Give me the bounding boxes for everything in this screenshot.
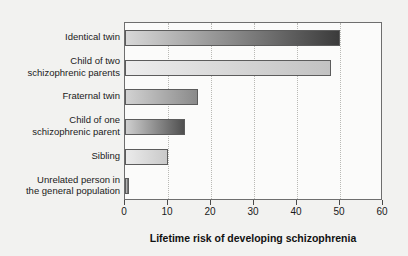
y-axis-label: Identical twin	[0, 31, 120, 43]
bar-series	[125, 23, 381, 199]
y-axis-label: Sibling	[0, 150, 120, 162]
tick-mark-50	[339, 200, 340, 205]
y-axis-label: Child of one schizophrenic parent	[0, 114, 120, 137]
tick-mark-0	[124, 200, 125, 205]
tick-mark-60	[382, 200, 383, 205]
tick-mark-30	[253, 200, 254, 205]
plot-area	[124, 22, 382, 200]
x-tick-label: 0	[121, 206, 127, 217]
x-tick-label: 40	[290, 206, 301, 217]
x-axis-ticks: 0102030405060	[124, 200, 382, 222]
bar	[125, 30, 340, 46]
y-axis-label: Unrelated person in the general populati…	[0, 174, 120, 197]
y-axis-label: Child of two schizophrenic parents	[0, 55, 120, 78]
tick-mark-20	[210, 200, 211, 205]
x-tick-label: 50	[333, 206, 344, 217]
y-axis-label: Fraternal twin	[0, 90, 120, 102]
bar	[125, 119, 185, 135]
tick-mark-40	[296, 200, 297, 205]
bar	[125, 60, 331, 76]
bar	[125, 178, 129, 194]
bar	[125, 89, 198, 105]
bar-chart: Identical twinChild of two schizophrenic…	[0, 0, 408, 256]
y-axis-category-labels: Identical twinChild of two schizophrenic…	[0, 22, 120, 200]
x-axis-title: Lifetime risk of developing schizophreni…	[124, 232, 382, 244]
x-tick-label: 10	[161, 206, 172, 217]
bar	[125, 149, 168, 165]
x-tick-label: 60	[376, 206, 387, 217]
x-tick-label: 30	[247, 206, 258, 217]
x-tick-label: 20	[204, 206, 215, 217]
tick-mark-10	[167, 200, 168, 205]
